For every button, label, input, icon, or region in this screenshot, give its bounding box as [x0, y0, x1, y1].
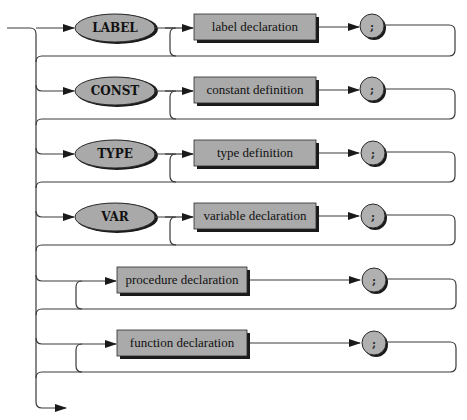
keyword-label-text: LABEL: [92, 21, 138, 35]
semicolon-text: ;: [372, 337, 376, 350]
semicolon-text: ;: [371, 210, 375, 223]
keyword-var-text: VAR: [100, 210, 130, 224]
semicolon-text: ;: [370, 83, 374, 96]
row-var: VAR variable declaration ;: [36, 203, 455, 251]
syntax-diagram: LABEL label declaration ; CONST constant…: [0, 0, 467, 420]
row-label: LABEL label declaration ;: [36, 14, 455, 62]
keyword-const-text: CONST: [91, 84, 140, 98]
keyword-type-text: TYPE: [97, 147, 133, 161]
row-const: CONST constant definition ;: [36, 77, 455, 125]
row-procedure: procedure declaration ;: [36, 267, 456, 315]
row-type: TYPE type definition ;: [36, 140, 455, 188]
semicolon-text: ;: [370, 20, 374, 33]
semicolon-text: ;: [372, 274, 376, 287]
nonterminal-text: procedure declaration: [126, 272, 239, 287]
semicolon-text: ;: [371, 147, 375, 160]
row-function: function declaration ;: [36, 330, 456, 378]
nonterminal-text: function declaration: [130, 335, 235, 350]
nonterminal-text: variable declaration: [204, 208, 307, 223]
nonterminal-text: label declaration: [212, 19, 299, 34]
nonterminal-text: type definition: [217, 145, 294, 160]
nonterminal-text: constant definition: [206, 82, 304, 97]
